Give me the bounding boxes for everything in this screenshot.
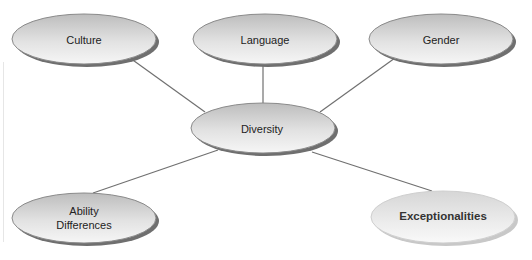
connector-exceptionalities [312,152,432,191]
label-gender: Gender [423,33,460,47]
label-exceptionalities: Exceptionalities [399,209,487,223]
label-language: Language [241,33,290,47]
connector-gender [320,58,395,112]
label-culture: Culture [66,33,101,47]
label-diversity: Diversity [241,122,283,136]
concept-map: Culture Language Gender Diversity Abilit… [0,0,532,260]
connector-ability [93,150,218,193]
connector-culture [130,58,205,112]
label-ability-line1: Ability [69,204,98,218]
label-ability-line2: Differences [56,218,111,232]
